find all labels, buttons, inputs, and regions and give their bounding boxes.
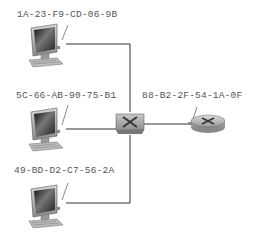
link-host1-switch bbox=[66, 44, 130, 112]
switch-icon bbox=[116, 114, 144, 134]
mac-label-host2: 5C-66-AB-90-75-B1 bbox=[16, 90, 116, 101]
diagram-canvas bbox=[0, 0, 260, 243]
computer-icon-host1 bbox=[29, 24, 63, 67]
mac-label-host3: 49-BD-D2-C7-56-2A bbox=[14, 165, 114, 176]
computer-icon-host3 bbox=[29, 185, 63, 228]
router-icon bbox=[188, 115, 225, 133]
computer-icon-host2 bbox=[29, 108, 63, 151]
network-diagram: 1A-23-F9-CD-06-9B 5C-66-AB-90-75-B1 49-B… bbox=[0, 0, 260, 243]
mac-label-router: 88-B2-2F-54-1A-0F bbox=[142, 90, 242, 101]
mac-label-host1: 1A-23-F9-CD-06-9B bbox=[17, 9, 117, 20]
